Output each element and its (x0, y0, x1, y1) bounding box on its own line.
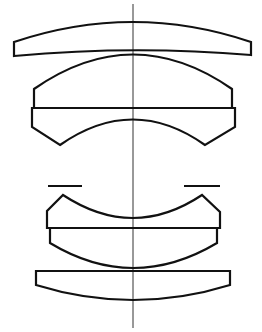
lens-diagram (0, 0, 262, 332)
